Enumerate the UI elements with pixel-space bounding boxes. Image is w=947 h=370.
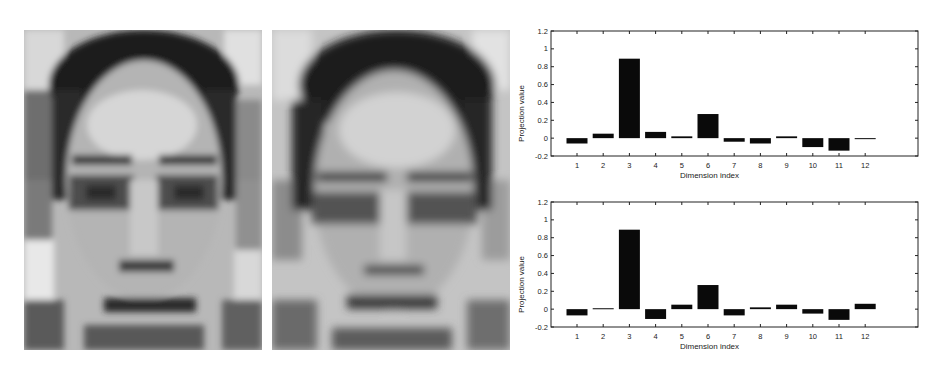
x-tick-label: 7	[732, 161, 736, 170]
y-tick-label: -0.2	[535, 152, 548, 161]
y-axis-title: Projection value	[517, 84, 526, 141]
bar-dimension-8	[750, 307, 771, 309]
y-tick-label: 1	[544, 44, 548, 53]
x-tick-label: 3	[627, 332, 631, 341]
chart-bottom-svg: -0.200.20.40.60.811.2123456789101112Dime…	[510, 196, 940, 366]
x-tick-label: 6	[706, 161, 710, 170]
x-tick-label: 6	[706, 332, 710, 341]
y-tick-label: 0.4	[538, 98, 548, 107]
x-tick-label: 1	[575, 332, 579, 341]
x-tick-label: 1	[575, 161, 579, 170]
bar-dimension-3	[619, 59, 640, 138]
chart-top-svg: -0.200.20.40.60.811.2123456789101112Dime…	[510, 25, 940, 195]
bar-dimension-2	[593, 308, 614, 309]
bar-chart-top: -0.200.20.40.60.811.2123456789101112Dime…	[510, 25, 940, 195]
x-tick-label: 10	[809, 332, 817, 341]
x-axis-title: Dimension index	[680, 171, 739, 180]
y-tick-label: 1.2	[538, 198, 548, 207]
y-tick-label: -0.2	[535, 323, 548, 332]
bar-dimension-11	[829, 138, 850, 151]
bar-dimension-11	[829, 309, 850, 320]
x-tick-label: 4	[654, 332, 658, 341]
x-tick-label: 5	[680, 161, 684, 170]
bar-dimension-12	[855, 304, 876, 309]
x-tick-label: 12	[861, 332, 869, 341]
y-axis-title: Projection value	[517, 255, 526, 312]
y-tick-label: 0.8	[538, 233, 548, 242]
bar-dimension-9	[776, 305, 797, 309]
x-tick-label: 8	[758, 161, 762, 170]
bar-dimension-4	[645, 132, 666, 138]
y-tick-label: 0	[544, 134, 548, 143]
y-tick-label: 1.2	[538, 27, 548, 36]
bar-dimension-4	[645, 309, 666, 319]
bar-dimension-12	[855, 138, 876, 139]
x-tick-label: 9	[785, 161, 789, 170]
y-tick-label: 0.2	[538, 287, 548, 296]
face-image-left	[24, 30, 262, 350]
face-image-right	[272, 30, 510, 350]
x-tick-label: 2	[601, 332, 605, 341]
y-tick-label: 0.2	[538, 116, 548, 125]
bar-dimension-3	[619, 230, 640, 309]
y-tick-label: 1	[544, 215, 548, 224]
x-tick-label: 9	[785, 332, 789, 341]
x-tick-label: 11	[835, 332, 843, 341]
y-tick-label: 0.6	[538, 80, 548, 89]
x-tick-label: 12	[861, 161, 869, 170]
bar-dimension-10	[802, 138, 823, 147]
x-tick-label: 4	[654, 161, 658, 170]
bar-dimension-5	[671, 305, 692, 309]
x-tick-label: 10	[809, 161, 817, 170]
x-tick-label: 5	[680, 332, 684, 341]
x-tick-label: 8	[758, 332, 762, 341]
bar-dimension-6	[698, 285, 719, 309]
bar-chart-bottom: -0.200.20.40.60.811.2123456789101112Dime…	[510, 196, 940, 366]
x-tick-label: 2	[601, 161, 605, 170]
bar-dimension-10	[802, 309, 823, 313]
bar-dimension-7	[724, 309, 745, 315]
x-tick-label: 11	[835, 161, 843, 170]
y-tick-label: 0.6	[538, 251, 548, 260]
bar-dimension-8	[750, 138, 771, 143]
x-tick-label: 7	[732, 332, 736, 341]
bar-dimension-6	[698, 114, 719, 138]
x-axis-title: Dimension index	[680, 342, 739, 351]
y-tick-label: 0	[544, 305, 548, 314]
bar-dimension-2	[593, 134, 614, 138]
y-tick-label: 0.4	[538, 269, 548, 278]
bar-dimension-1	[567, 309, 588, 315]
face-left-graphic	[24, 30, 262, 350]
x-tick-label: 3	[627, 161, 631, 170]
y-tick-label: 0.8	[538, 62, 548, 71]
bar-dimension-9	[776, 136, 797, 138]
bar-dimension-5	[671, 136, 692, 138]
bar-dimension-7	[724, 138, 745, 142]
bar-dimension-1	[567, 138, 588, 143]
face-right-graphic	[272, 30, 510, 350]
